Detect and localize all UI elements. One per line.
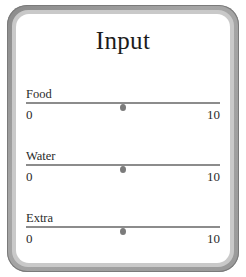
water-slider-label: Water (26, 149, 56, 164)
food-slider-label: Food (26, 87, 52, 102)
food-slider-thumb[interactable] (120, 104, 126, 111)
input-panel: Input Food 0 10 Water 0 10 Extra 0 1 (7, 5, 239, 272)
food-slider-max: 10 (207, 107, 220, 123)
panel-frame: Input Food 0 10 Water 0 10 Extra 0 1 (12, 10, 234, 267)
water-slider-max: 10 (207, 169, 220, 185)
extra-slider-label: Extra (26, 211, 53, 226)
water-slider[interactable]: Water 0 10 (26, 149, 220, 189)
water-slider-min: 0 (26, 169, 33, 185)
water-slider-thumb[interactable] (120, 166, 126, 173)
food-slider-min: 0 (26, 107, 33, 123)
panel-title: Input (16, 27, 230, 55)
extra-slider-max: 10 (207, 231, 220, 247)
extra-slider-min: 0 (26, 231, 33, 247)
extra-slider[interactable]: Extra 0 10 (26, 211, 220, 251)
food-slider[interactable]: Food 0 10 (26, 87, 220, 127)
panel-face: Input Food 0 10 Water 0 10 Extra 0 1 (16, 14, 230, 263)
extra-slider-thumb[interactable] (120, 228, 126, 235)
